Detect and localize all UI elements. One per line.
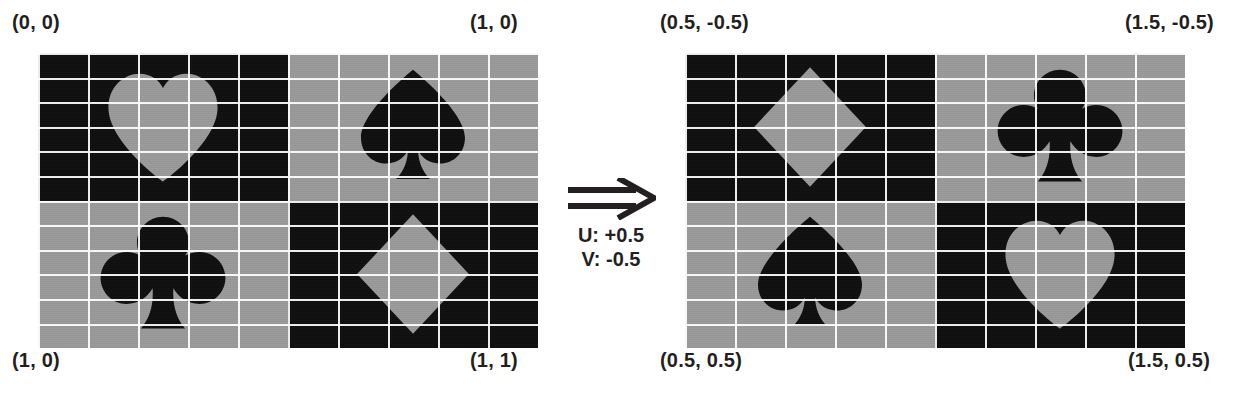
right-quadrant-bottom-left: [685, 201, 935, 349]
v-offset-label: V: -0.5: [546, 248, 676, 272]
transform-annotation: U: +0.5 V: -0.5: [546, 178, 676, 271]
left-quadrant-top-left: [38, 53, 288, 201]
club-icon: [98, 209, 228, 339]
club-icon: [995, 62, 1125, 192]
double-right-arrow-icon: [546, 178, 676, 224]
spade-icon: [348, 62, 478, 192]
heart-icon: [98, 62, 228, 192]
left-quadrant-bottom-right: [288, 201, 538, 349]
right-texture: [685, 53, 1185, 348]
right-texture-corner-top-right: (1.5, -0.5): [1125, 12, 1214, 32]
right-quadrant-top-left: [685, 53, 935, 201]
left-quadrant-top-right: [288, 53, 538, 201]
left-texture-corner-bottom-right: (1, 1): [470, 350, 518, 370]
diagram-canvas: (0, 0) (1, 0): [0, 0, 1256, 394]
left-texture: [38, 53, 538, 348]
u-offset-label: U: +0.5: [546, 224, 676, 248]
left-texture-corner-top-left: (0, 0): [12, 12, 60, 32]
heart-icon: [995, 209, 1125, 339]
diamond-icon: [745, 62, 875, 192]
spade-icon: [745, 209, 875, 339]
left-quadrant-bottom-left: [38, 201, 288, 349]
left-texture-corner-bottom-left: (1, 0): [12, 350, 60, 370]
right-texture-corner-bottom-left: (0.5, 0.5): [660, 350, 742, 370]
diamond-icon: [348, 209, 478, 339]
right-quadrant-top-right: [935, 53, 1185, 201]
left-texture-corner-top-right: (1, 0): [470, 12, 518, 32]
right-texture-corner-bottom-right: (1.5, 0.5): [1128, 350, 1210, 370]
right-texture-corner-top-left: (0.5, -0.5): [660, 12, 749, 32]
right-quadrant-bottom-right: [935, 201, 1185, 349]
